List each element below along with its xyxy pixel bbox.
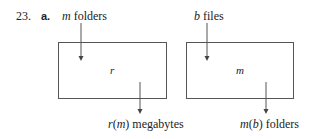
arrows-layer: [0, 0, 312, 139]
right-output-arrow-icon: [264, 82, 269, 114]
right-input-arrow-icon: [205, 23, 210, 61]
left-output-arrow-icon: [138, 82, 143, 114]
left-input-arrow-icon: [79, 23, 84, 61]
